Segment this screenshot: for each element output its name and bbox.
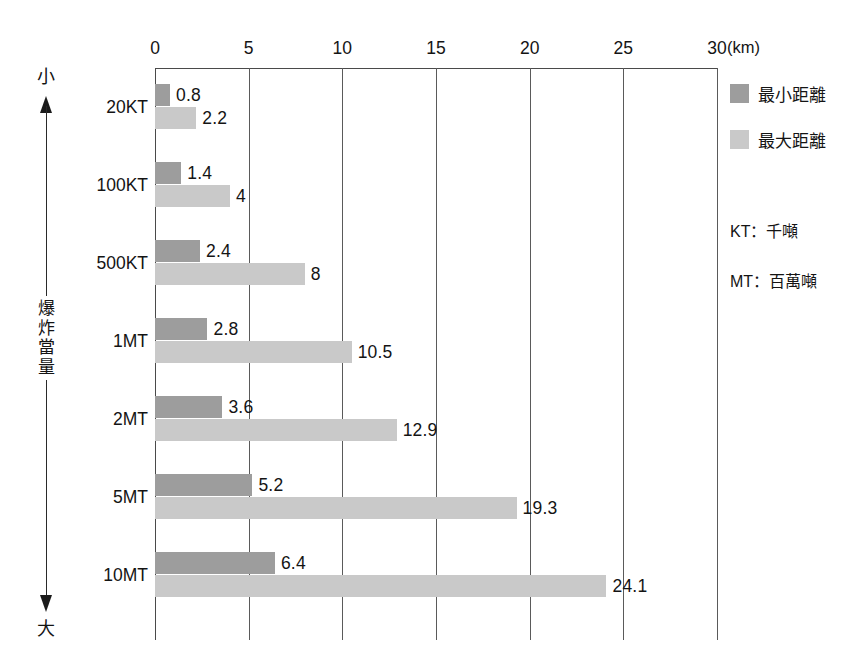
yaxis-category-5MT: 5MT (113, 487, 148, 508)
bar-value-min-20KT: 0.8 (170, 85, 201, 106)
xaxis-tick-label-15: 15 (426, 38, 445, 59)
bar-row: 5.219.3 (155, 474, 717, 520)
axis-direction-top-label: 小 (37, 62, 55, 88)
bar-max-1MT (155, 341, 352, 363)
yaxis-title-char-1: 爆 (35, 299, 57, 319)
xaxis-unit-label: (km) (727, 38, 760, 57)
legend-label: 最大距離 (758, 127, 826, 152)
bar-row: 6.424.1 (155, 552, 717, 598)
yaxis-title: 爆 炸 當 量 (35, 296, 57, 380)
bar-chart: 小 爆 炸 當 量 大 20KT100KT500KT1MT2MT5MT10MT … (0, 0, 863, 665)
xaxis-tick-label-5: 5 (244, 38, 254, 59)
bar-value-max-10MT: 24.1 (606, 576, 647, 597)
yaxis-category-2MT: 2MT (113, 409, 148, 430)
bar-max-20KT (155, 107, 196, 129)
bar-row: 2.810.5 (155, 318, 717, 364)
unit-note-line: KT：千噸 (730, 218, 858, 242)
bar-min-2MT (155, 396, 222, 418)
gridline-30 (717, 68, 718, 640)
bar-min-10MT (155, 552, 275, 574)
bar-min-20KT (155, 84, 170, 106)
legend-item: 最大距離 (730, 129, 858, 149)
yaxis-category-1MT: 1MT (113, 331, 148, 352)
bar-value-min-1MT: 2.8 (207, 319, 238, 340)
legend-swatch-icon (730, 130, 749, 149)
yaxis-title-char-2: 炸 (35, 319, 57, 339)
bar-min-1MT (155, 318, 207, 340)
unit-notes: KT：千噸MT：百萬噸 (730, 218, 858, 318)
yaxis-title-char-3: 當 (35, 338, 57, 358)
bar-rows: 0.82.21.442.482.810.53.612.95.219.36.424… (155, 68, 717, 640)
bar-value-min-100KT: 1.4 (181, 163, 212, 184)
bar-min-5MT (155, 474, 252, 496)
bar-value-max-2MT: 12.9 (397, 420, 438, 441)
yaxis-category-500KT: 500KT (96, 253, 148, 274)
yaxis-title-char-4: 量 (35, 358, 57, 378)
arrow-down-icon (40, 595, 52, 612)
bar-row: 3.612.9 (155, 396, 717, 442)
unit-note-line: MT：百萬噸 (730, 268, 858, 292)
yaxis-category-100KT: 100KT (96, 175, 148, 196)
bar-value-min-5MT: 5.2 (252, 475, 283, 496)
xaxis-tick-label-0: 0 (150, 38, 160, 59)
bar-max-100KT (155, 185, 230, 207)
yaxis-category-20KT: 20KT (106, 97, 148, 118)
bar-value-max-500KT: 8 (305, 264, 321, 285)
bar-value-max-100KT: 4 (230, 186, 246, 207)
legend: 最小距離最大距離 (730, 83, 858, 175)
xaxis-tick-label-10: 10 (333, 38, 352, 59)
bar-value-min-500KT: 2.4 (200, 241, 231, 262)
bar-row: 1.44 (155, 162, 717, 208)
bar-value-max-20KT: 2.2 (196, 108, 227, 129)
xaxis-tick-label-20: 20 (520, 38, 539, 59)
bar-max-10MT (155, 575, 606, 597)
bar-min-500KT (155, 240, 200, 262)
legend-item: 最小距離 (730, 83, 858, 103)
plot-area: 0.82.21.442.482.810.53.612.95.219.36.424… (155, 68, 717, 640)
bar-value-min-10MT: 6.4 (275, 553, 306, 574)
legend-label: 最小距離 (758, 81, 826, 106)
xaxis-tick-label-25: 25 (614, 38, 633, 59)
bar-row: 2.48 (155, 240, 717, 286)
bar-min-100KT (155, 162, 181, 184)
bar-max-5MT (155, 497, 517, 519)
bar-max-500KT (155, 263, 305, 285)
legend-swatch-icon (730, 84, 749, 103)
bar-max-2MT (155, 419, 397, 441)
bar-value-max-5MT: 19.3 (517, 498, 558, 519)
yaxis-category-10MT: 10MT (103, 565, 148, 586)
axis-direction-bottom-label: 大 (37, 614, 55, 640)
xaxis-tick-label-30: 30 (707, 38, 726, 59)
bar-row: 0.82.2 (155, 84, 717, 130)
yaxis-category-labels: 20KT100KT500KT1MT2MT5MT10MT (80, 0, 148, 665)
bar-value-min-2MT: 3.6 (222, 397, 253, 418)
bar-value-max-1MT: 10.5 (352, 342, 393, 363)
